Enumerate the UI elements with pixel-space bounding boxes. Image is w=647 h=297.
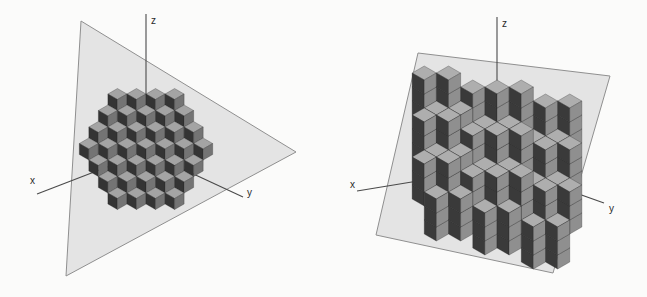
z-axis-label: z	[502, 18, 507, 29]
x-axis-label: x	[30, 175, 35, 186]
y-axis-label: y	[609, 203, 614, 214]
x-axis-label: x	[350, 179, 355, 190]
y-axis-label: y	[247, 187, 252, 198]
figure: xyzxyz	[0, 0, 647, 297]
figure-canvas: xyzxyz	[0, 0, 647, 297]
left-panel: xyz	[30, 14, 296, 276]
z-axis-label: z	[151, 15, 156, 26]
right-panel: xyz	[350, 17, 614, 273]
